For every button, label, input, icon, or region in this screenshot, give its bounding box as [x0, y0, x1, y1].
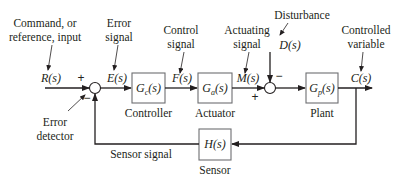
plant-transfer-function: Gp(s) [309, 81, 334, 97]
minus-sign-disturbance: − [275, 69, 282, 83]
signal-f: F(s) [171, 71, 192, 85]
disturbance-label: Disturbance [274, 9, 330, 21]
error-detector-annotation: Error detector [36, 95, 85, 142]
controller-label: Controller [125, 107, 172, 119]
command-annotation: Command, or reference, input [9, 17, 82, 70]
actuator-block: Ga(s) Actuator [195, 73, 235, 119]
sensor-block: H(s) Sensor [199, 129, 231, 176]
sensor-transfer-function: H(s) [203, 137, 225, 151]
error-signal-label-line1: Error [107, 17, 131, 29]
control-signal-pointer [180, 52, 184, 73]
controlled-variable-annotation: Controlled variable [341, 24, 390, 71]
control-signal-annotation: Control signal [163, 24, 198, 73]
error-signal-annotation: Error signal [105, 17, 132, 70]
signal-e: E(s) [106, 71, 127, 85]
controller-transfer-function: Gc(s) [136, 81, 161, 97]
error-detector-label-line1: Error [43, 116, 67, 128]
control-signal-label-line1: Control [163, 24, 198, 36]
controlled-variable-pointer [361, 52, 363, 71]
disturbance-annotation: Disturbance D(s) [274, 9, 330, 52]
actuator-transfer-function: Ga(s) [202, 81, 227, 97]
error-detector-junction [90, 83, 101, 94]
disturbance-pointer [280, 23, 288, 35]
actuator-label: Actuator [195, 107, 235, 119]
block-diagram: Command, or reference, input Error signa… [0, 0, 406, 181]
sensor-label: Sensor [199, 164, 230, 176]
plant-block: Gp(s) Plant [306, 73, 338, 119]
disturbance-symbol: D(s) [278, 38, 300, 52]
minus-sign-feedback: − [83, 91, 90, 105]
actuating-signal-annotation: Actuating signal [224, 24, 270, 73]
sensor-signal-label: Sensor signal [110, 148, 172, 161]
command-pointer [48, 45, 52, 70]
error-detector-label-line2: detector [36, 130, 73, 142]
plus-sign-actuating: + [251, 90, 258, 104]
command-label-line2: reference, input [9, 31, 82, 44]
actuating-signal-label-line2: signal [233, 38, 260, 51]
controller-block: Gc(s) Controller [125, 73, 172, 119]
disturbance-junction [265, 83, 276, 94]
actuating-signal-pointer [245, 52, 249, 73]
plant-label: Plant [310, 107, 334, 119]
controlled-variable-label-line1: Controlled [341, 24, 390, 36]
command-label-line1: Command, or [13, 17, 76, 30]
signal-c: C(s) [351, 71, 372, 85]
error-signal-label-line2: signal [105, 31, 132, 44]
error-signal-pointer [114, 45, 118, 70]
controlled-variable-label-line2: variable [347, 38, 384, 50]
error-detector-pointer [68, 95, 85, 111]
signal-r: R(s) [40, 71, 61, 85]
signal-m: M(s) [236, 71, 260, 85]
control-signal-label-line2: signal [167, 38, 194, 51]
plus-sign-reference: + [77, 71, 84, 85]
actuating-signal-label-line1: Actuating [224, 24, 270, 37]
